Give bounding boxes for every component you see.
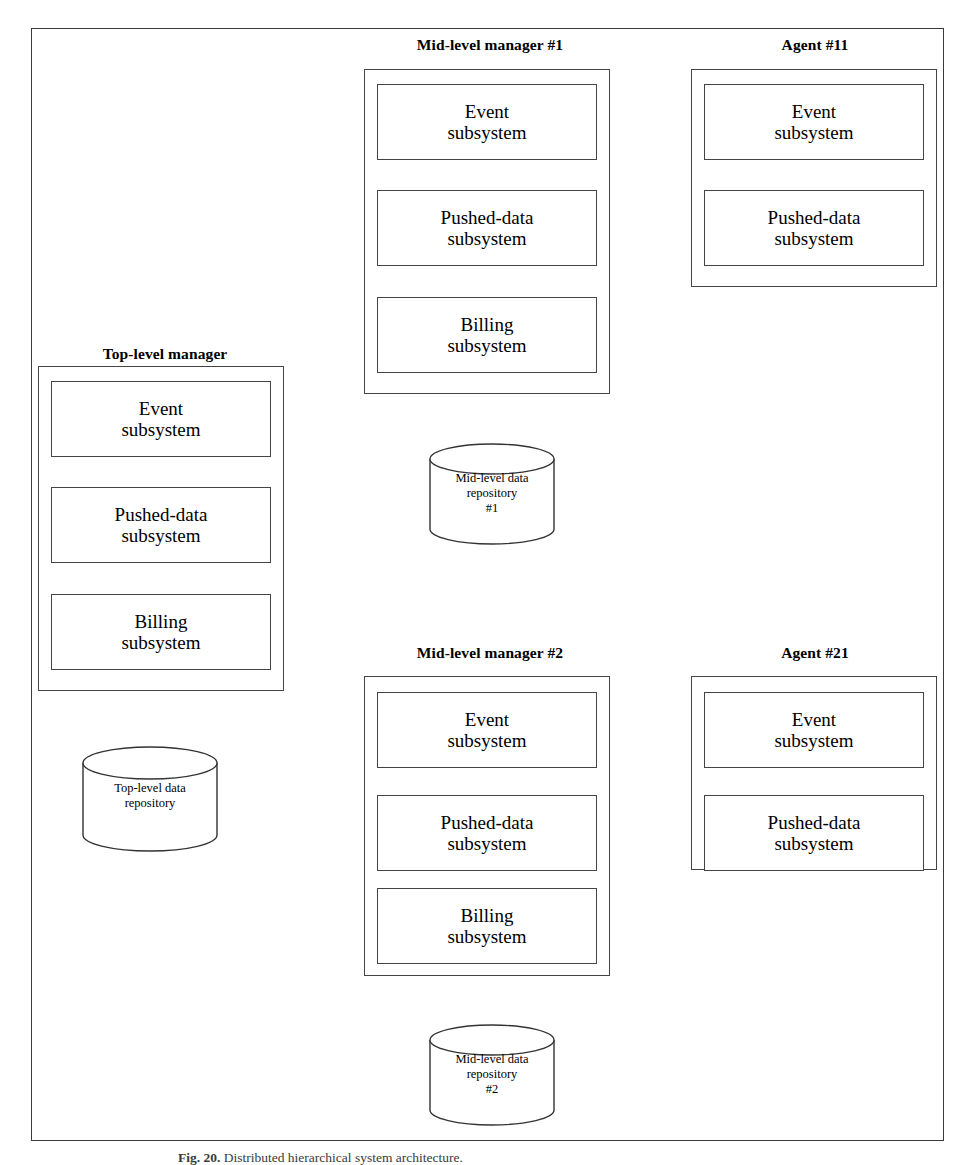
subsystem-label-line2: subsystem — [447, 335, 526, 356]
repository-label-line1: Top-level data — [114, 781, 186, 795]
subsystem-label-line2: subsystem — [774, 730, 853, 751]
subsystem-label-line1: Pushed-data — [768, 812, 861, 833]
subsystem-label-line2: subsystem — [121, 632, 200, 653]
mid-level-data-repository-2[interactable]: Mid-level data repository #2 — [427, 1023, 557, 1128]
agent-21-event-subsystem[interactable]: Event subsystem — [704, 692, 924, 768]
repository-label-line1: Mid-level data — [455, 471, 528, 485]
agent-21-pushed-data-subsystem[interactable]: Pushed-data subsystem — [704, 795, 924, 871]
subsystem-label-line1: Pushed-data — [441, 812, 534, 833]
repository-label-line3: #2 — [486, 1082, 499, 1096]
mid-level-data-repository-1[interactable]: Mid-level data repository #1 — [427, 442, 557, 547]
agent-21-title: Agent #21 — [692, 644, 938, 662]
repository-label: Mid-level data repository #2 — [427, 1052, 557, 1096]
mid-level-manager-2-title: Mid-level manager #2 — [365, 644, 615, 662]
subsystem-label-line2: subsystem — [447, 122, 526, 143]
repository-label-line2: repository — [467, 1067, 518, 1081]
top-level-manager-event-subsystem[interactable]: Event subsystem — [51, 381, 271, 457]
subsystem-label-line1: Billing — [121, 611, 200, 632]
mid-level-manager-1-event-subsystem[interactable]: Event subsystem — [377, 84, 597, 160]
subsystem-label-line2: subsystem — [768, 228, 861, 249]
repository-label: Mid-level data repository #1 — [427, 471, 557, 515]
mid-level-manager-2-event-subsystem[interactable]: Event subsystem — [377, 692, 597, 768]
subsystem-label-line1: Event — [447, 709, 526, 730]
agent-11-event-subsystem[interactable]: Event subsystem — [704, 84, 924, 160]
subsystem-label-line2: subsystem — [768, 833, 861, 854]
agent-11-pushed-data-subsystem[interactable]: Pushed-data subsystem — [704, 190, 924, 266]
subsystem-label-line2: subsystem — [447, 730, 526, 751]
caption-label: Fig. 20. — [178, 1150, 220, 1165]
subsystem-label-line1: Billing — [447, 905, 526, 926]
mid-level-manager-1-title: Mid-level manager #1 — [365, 36, 615, 54]
subsystem-label-line2: subsystem — [115, 525, 208, 546]
top-level-manager-pushed-data-subsystem[interactable]: Pushed-data subsystem — [51, 487, 271, 563]
subsystem-label-line2: subsystem — [441, 228, 534, 249]
mid-level-manager-1-pushed-data-subsystem[interactable]: Pushed-data subsystem — [377, 190, 597, 266]
subsystem-label-line2: subsystem — [774, 122, 853, 143]
repository-label-line3: #1 — [486, 501, 499, 515]
repository-label-line2: repository — [467, 486, 518, 500]
subsystem-label-line1: Event — [774, 709, 853, 730]
repository-label: Top-level data repository — [80, 781, 220, 811]
subsystem-label-line1: Event — [447, 101, 526, 122]
agent-11-title: Agent #11 — [692, 36, 938, 54]
caption-text: Distributed hierarchical system architec… — [224, 1150, 463, 1165]
figure-caption: Fig. 20. Distributed hierarchical system… — [178, 1150, 818, 1165]
top-level-data-repository[interactable]: Top-level data repository — [80, 745, 220, 853]
subsystem-label-line1: Pushed-data — [441, 207, 534, 228]
repository-label-line1: Mid-level data — [455, 1052, 528, 1066]
top-level-manager-title: Top-level manager — [40, 345, 290, 363]
top-level-manager-billing-subsystem[interactable]: Billing subsystem — [51, 594, 271, 670]
subsystem-label-line1: Billing — [447, 314, 526, 335]
subsystem-label-line2: subsystem — [441, 833, 534, 854]
subsystem-label-line1: Pushed-data — [768, 207, 861, 228]
subsystem-label-line2: subsystem — [447, 926, 526, 947]
repository-label-line2: repository — [125, 796, 176, 810]
subsystem-label-line1: Event — [774, 101, 853, 122]
subsystem-label-line1: Event — [121, 398, 200, 419]
mid-level-manager-1-billing-subsystem[interactable]: Billing subsystem — [377, 297, 597, 373]
mid-level-manager-2-pushed-data-subsystem[interactable]: Pushed-data subsystem — [377, 795, 597, 871]
subsystem-label-line2: subsystem — [121, 419, 200, 440]
mid-level-manager-2-billing-subsystem[interactable]: Billing subsystem — [377, 888, 597, 964]
subsystem-label-line1: Pushed-data — [115, 504, 208, 525]
